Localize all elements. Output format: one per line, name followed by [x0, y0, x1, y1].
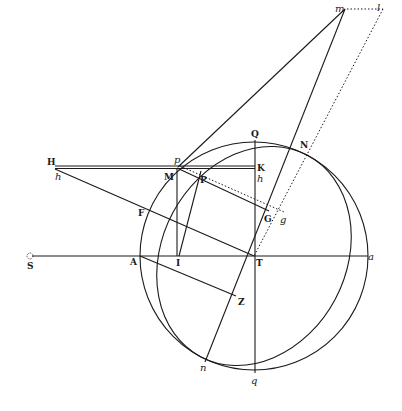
label-G: G	[264, 214, 272, 224]
label-m: m	[335, 3, 344, 14]
label-n: n	[200, 362, 206, 373]
line-h-T	[55, 169, 254, 256]
label-P: P	[200, 175, 207, 185]
label-g: g	[280, 214, 286, 225]
label-T: T	[256, 258, 263, 268]
line-m-n	[205, 9, 345, 362]
diagram: H h p M P K h Q N m l G g F S A I T a Z …	[0, 0, 402, 411]
line-A-Z	[140, 256, 236, 296]
label-p: p	[174, 154, 181, 165]
dotted-l-T	[254, 9, 383, 256]
label-h-right: h	[257, 173, 263, 184]
label-K: K	[257, 163, 266, 173]
label-F: F	[138, 208, 145, 218]
label-l: l	[377, 2, 380, 13]
label-I: I	[176, 258, 180, 268]
label-S: S	[27, 261, 34, 271]
line-I-P	[179, 171, 201, 256]
label-A: A	[129, 257, 138, 267]
label-a: a	[368, 251, 374, 262]
label-Q: Q	[251, 129, 259, 139]
label-q: q	[251, 375, 257, 386]
label-h-left: h	[55, 171, 61, 182]
label-N: N	[300, 140, 308, 150]
geometry-figure: H h p M P K h Q N m l G g F S A I T a Z …	[0, 0, 402, 411]
label-H: H	[47, 157, 56, 167]
line-p-m	[178, 9, 345, 167]
label-M: M	[164, 172, 174, 182]
line-p-g	[180, 166, 284, 212]
label-Z: Z	[238, 297, 245, 307]
